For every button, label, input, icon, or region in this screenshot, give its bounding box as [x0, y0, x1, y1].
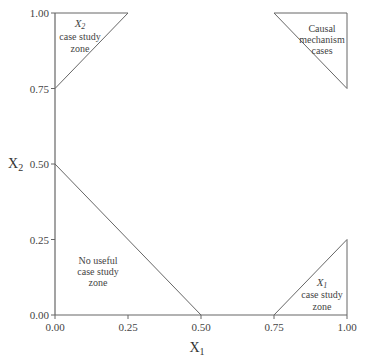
- svg-text:zone: zone: [89, 277, 108, 288]
- case-selection-diagram: 1.00 0.75 0.50 0.25 0.00 0.00 0.25 0.50 …: [0, 0, 370, 360]
- svg-text:mechanism: mechanism: [299, 34, 345, 45]
- x-axis-title: X1: [189, 340, 204, 357]
- x-tick-label: 1.00: [337, 321, 357, 333]
- svg-text:zone: zone: [313, 301, 332, 312]
- x1-zone-label: X1 case study zone: [301, 276, 342, 312]
- y-tick-label: 0.00: [30, 309, 50, 321]
- svg-text:case study: case study: [59, 31, 100, 42]
- svg-text:zone: zone: [71, 43, 90, 54]
- svg-text:No useful: No useful: [78, 255, 117, 266]
- x-tick-labels: 0.00 0.25 0.50 0.75 1.00: [45, 321, 357, 333]
- y-axis-title: X2: [8, 156, 23, 173]
- y-tick-label: 1.00: [30, 7, 50, 19]
- svg-text:Causal: Causal: [308, 23, 335, 34]
- svg-text:X2: X2: [74, 17, 86, 31]
- y-tick-label: 0.50: [30, 158, 50, 170]
- svg-text:X1: X1: [316, 276, 328, 290]
- x2-zone-boundary: [55, 13, 128, 89]
- y-tick-label: 0.25: [30, 234, 50, 246]
- y-tick-labels: 1.00 0.75 0.50 0.25 0.00: [30, 7, 50, 321]
- x2-zone-label: X2 case study zone: [59, 17, 100, 54]
- svg-text:cases: cases: [311, 45, 332, 56]
- x1-zone-boundary: [274, 240, 347, 316]
- y-tick-label: 0.75: [30, 83, 50, 95]
- no-useful-zone-boundary: [55, 164, 201, 315]
- no-useful-zone-label: No useful case study zone: [77, 255, 118, 288]
- x-tick-label: 0.25: [118, 321, 138, 333]
- x-tick-label: 0.50: [191, 321, 211, 333]
- x-tick-label: 0.00: [45, 321, 65, 333]
- x-tick-label: 0.75: [264, 321, 284, 333]
- svg-text:case study: case study: [77, 266, 118, 277]
- svg-text:case study: case study: [301, 289, 342, 300]
- causal-zone-label: Causal mechanism cases: [299, 23, 345, 56]
